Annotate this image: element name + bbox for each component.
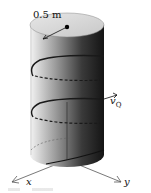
x-axis-label: x	[26, 177, 32, 187]
radius-label: 0.5 m	[33, 10, 62, 20]
figure-caption-cropped	[8, 188, 68, 191]
velocity-subscript: Q	[116, 101, 122, 109]
cylinder-helix-diagram	[0, 0, 151, 193]
velocity-label: vQ	[110, 96, 121, 109]
y-axis-label: y	[124, 177, 130, 187]
y-axis-arrowhead	[114, 176, 121, 182]
